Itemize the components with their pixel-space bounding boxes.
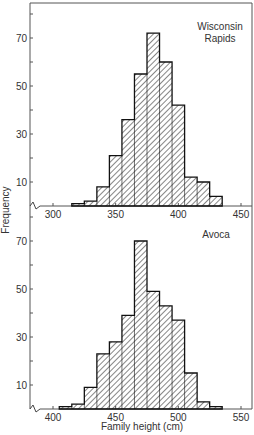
x-axis-label: Family height (cm)	[101, 421, 183, 432]
svg-text:50: 50	[16, 81, 28, 92]
svg-text:10: 10	[16, 380, 28, 391]
svg-text:30: 30	[16, 332, 28, 343]
svg-text:10: 10	[16, 177, 28, 188]
svg-text:400: 400	[45, 412, 62, 423]
top-panel-title-line1: Wisconsin	[197, 21, 243, 32]
bottom-panel-title: Avoca	[202, 229, 230, 240]
svg-text:30: 30	[16, 129, 28, 140]
svg-text:70: 70	[16, 33, 28, 44]
svg-text:350: 350	[107, 209, 124, 220]
histogram-figure: 10305070300350400450 1030507040045050055…	[0, 0, 254, 435]
svg-text:50: 50	[16, 284, 28, 295]
top-panel-title-line2: Rapids	[204, 33, 235, 44]
svg-text:450: 450	[233, 209, 250, 220]
svg-text:70: 70	[16, 236, 28, 247]
y-axis-label: Frequency	[0, 186, 11, 233]
svg-text:300: 300	[45, 209, 62, 220]
svg-text:550: 550	[233, 412, 250, 423]
svg-text:400: 400	[170, 209, 187, 220]
